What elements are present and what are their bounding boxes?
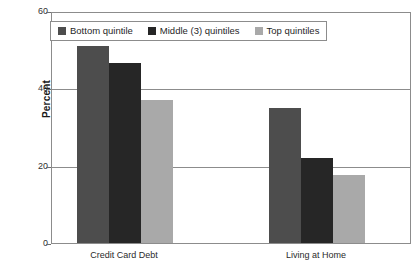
y-tick-label-20: 20: [28, 162, 48, 171]
bar: [333, 175, 365, 243]
y-tick-mark-0: [46, 244, 51, 245]
bar: [269, 108, 301, 243]
legend-label: Top quintiles: [267, 26, 320, 36]
bar: [141, 100, 173, 243]
y-axis-tick-labels: 0204060: [24, 0, 48, 271]
x-axis-label: Credit Card Debt: [64, 250, 184, 260]
legend-label: Bottom quintile: [70, 26, 133, 36]
chart-legend: Bottom quintileMiddle (3) quintilesTop q…: [50, 21, 327, 41]
legend-item: Top quintiles: [255, 26, 320, 36]
bar-chart: Percent 0204060 Credit Card DebtLiving a…: [0, 0, 420, 271]
y-tick-label-40: 40: [28, 84, 48, 93]
legend-label: Middle (3) quintiles: [160, 26, 240, 36]
plot-area: [51, 12, 411, 244]
bar: [77, 46, 109, 243]
bar: [109, 63, 141, 243]
y-tick-mark-40: [46, 89, 51, 90]
y-tick-mark-60: [46, 12, 51, 13]
y-tick-label-60: 60: [28, 7, 48, 16]
y-tick-label-0: 0: [28, 239, 48, 248]
legend-swatch-icon: [255, 27, 263, 35]
legend-item: Bottom quintile: [58, 26, 133, 36]
legend-swatch-icon: [148, 27, 156, 35]
legend-item: Middle (3) quintiles: [148, 26, 240, 36]
legend-swatch-icon: [58, 27, 66, 35]
bar: [301, 158, 333, 243]
y-tick-mark-20: [46, 167, 51, 168]
x-axis-label: Living at Home: [256, 250, 376, 260]
